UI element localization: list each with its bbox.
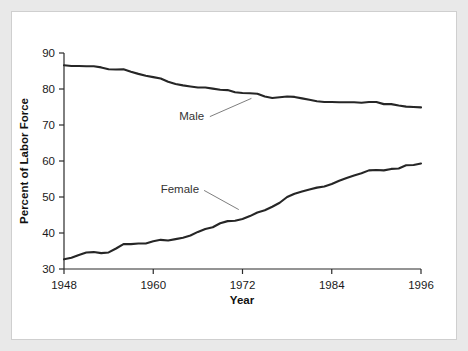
series-line-male (64, 65, 421, 107)
series-annotations: MaleFemale (161, 98, 252, 209)
x-axis-tick-label: 1948 (51, 279, 77, 291)
x-axis-title: Year (230, 294, 255, 306)
y-axis-title: Percent of Labor Force (18, 98, 30, 224)
x-axis-tick-label: 1960 (140, 279, 166, 291)
line-chart: 30405060708090 19481960197219841996 Perc… (12, 12, 456, 339)
x-axis-tick-label: 1996 (408, 279, 434, 291)
male-series-label-leader-line (210, 98, 252, 116)
x-axis-tick-label: 1972 (230, 279, 256, 291)
y-axis-tick-label: 30 (42, 263, 55, 275)
x-axis-ticks (64, 269, 421, 274)
y-axis-tick-label: 70 (42, 119, 55, 131)
figure-root: 30405060708090 19481960197219841996 Perc… (0, 0, 468, 351)
y-axis-tick-label: 50 (42, 191, 55, 203)
y-axis-tick-label: 90 (42, 47, 55, 59)
female-series-label: Female (161, 183, 199, 195)
y-axis-tick-labels: 30405060708090 (42, 47, 55, 275)
data-series-group (64, 65, 421, 259)
chart-axes (59, 53, 421, 274)
x-axis-tick-labels: 19481960197219841996 (51, 279, 434, 291)
male-series-label: Male (179, 110, 204, 122)
chart-panel: 30405060708090 19481960197219841996 Perc… (11, 11, 457, 340)
y-axis-tick-label: 40 (42, 227, 55, 239)
x-axis-tick-label: 1984 (319, 279, 345, 291)
y-axis-tick-label: 60 (42, 155, 55, 167)
y-axis-tick-label: 80 (42, 83, 55, 95)
y-axis-ticks (59, 53, 64, 269)
female-series-label-leader-line (204, 190, 239, 209)
series-line-female (64, 164, 421, 260)
